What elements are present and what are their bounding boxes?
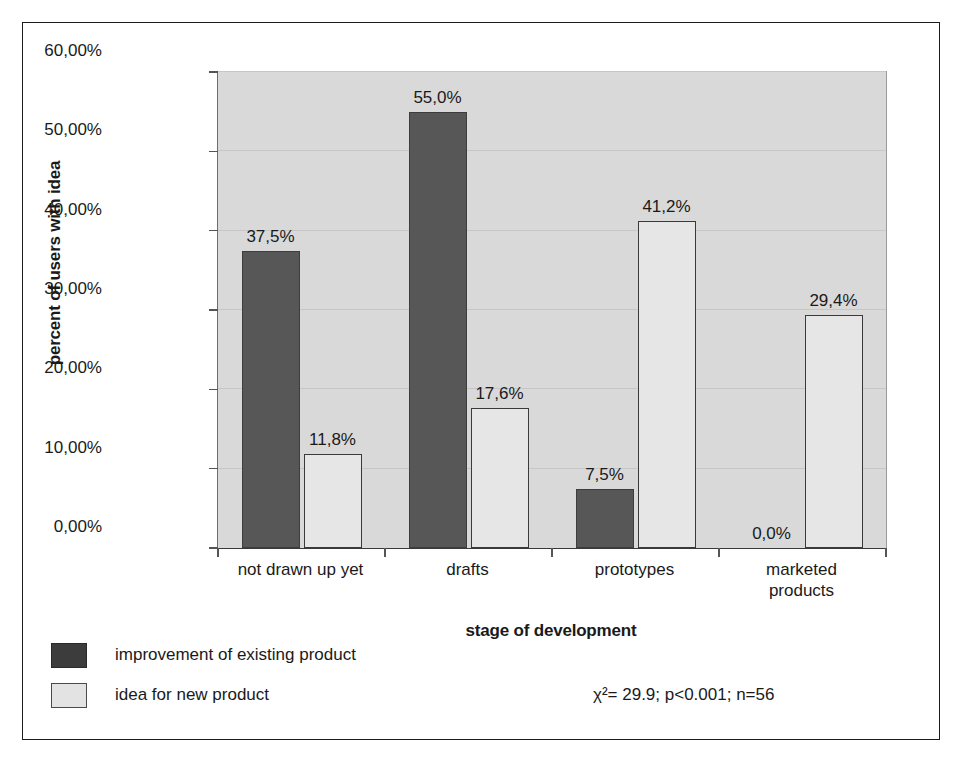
legend-label-improvement: improvement of existing product — [115, 645, 356, 665]
gridline — [218, 388, 886, 389]
bar-value-label: 11,8% — [290, 430, 376, 450]
x-category-label: marketed products — [718, 559, 885, 602]
chart-figure: percent of users with idea 0,00%10,00%20… — [22, 22, 940, 740]
bar — [471, 408, 529, 548]
legend-swatch-new-product — [51, 683, 87, 708]
bar-value-label: 0,0% — [729, 524, 815, 544]
y-tick-label: 40,00% — [0, 200, 102, 220]
gridline — [218, 71, 886, 72]
y-tick-label: 10,00% — [0, 438, 102, 458]
x-category-label: prototypes — [551, 559, 718, 580]
y-tick-mark — [209, 71, 218, 73]
legend-item-improvement: improvement of existing product — [51, 635, 356, 675]
gridline — [218, 230, 886, 231]
y-tick-mark — [209, 230, 218, 232]
y-tick-mark — [209, 389, 218, 391]
x-tick-mark — [551, 548, 553, 557]
y-tick-label: 20,00% — [0, 358, 102, 378]
x-tick-mark — [718, 548, 720, 557]
legend-label-new-product: idea for new product — [115, 685, 269, 705]
bar-value-label: 17,6% — [457, 384, 543, 404]
y-tick-label: 30,00% — [0, 279, 102, 299]
legend-item-new-product: idea for new product — [51, 675, 356, 715]
bar — [576, 489, 634, 549]
bar — [638, 221, 696, 548]
gridline — [218, 150, 886, 151]
bar-value-label: 41,2% — [624, 197, 710, 217]
y-tick-mark — [209, 468, 218, 470]
chart-legend: improvement of existing product idea for… — [51, 635, 356, 715]
bar — [409, 112, 467, 548]
bar-value-label: 29,4% — [791, 291, 877, 311]
plot-area: 0,00%10,00%20,00%30,00%40,00%50,00%60,00… — [217, 71, 887, 549]
legend-swatch-improvement — [51, 643, 87, 668]
x-category-label: drafts — [384, 559, 551, 580]
bar — [242, 251, 300, 549]
bar — [304, 454, 362, 548]
x-tick-mark — [384, 548, 386, 557]
bar-value-label: 7,5% — [562, 465, 648, 485]
statistics-annotation: χ²= 29.9; p<0.001; n=56 — [593, 685, 774, 705]
y-tick-label: 50,00% — [0, 120, 102, 140]
x-category-label: not drawn up yet — [217, 559, 384, 580]
y-tick-label: 60,00% — [0, 41, 102, 61]
y-tick-mark — [209, 309, 218, 311]
x-tick-mark — [217, 548, 219, 557]
y-tick-label: 0,00% — [0, 517, 102, 537]
y-tick-mark — [209, 151, 218, 153]
gridline — [218, 309, 886, 310]
bar-value-label: 55,0% — [395, 88, 481, 108]
bar — [805, 315, 863, 548]
x-tick-mark — [885, 548, 887, 557]
bar-value-label: 37,5% — [228, 227, 314, 247]
